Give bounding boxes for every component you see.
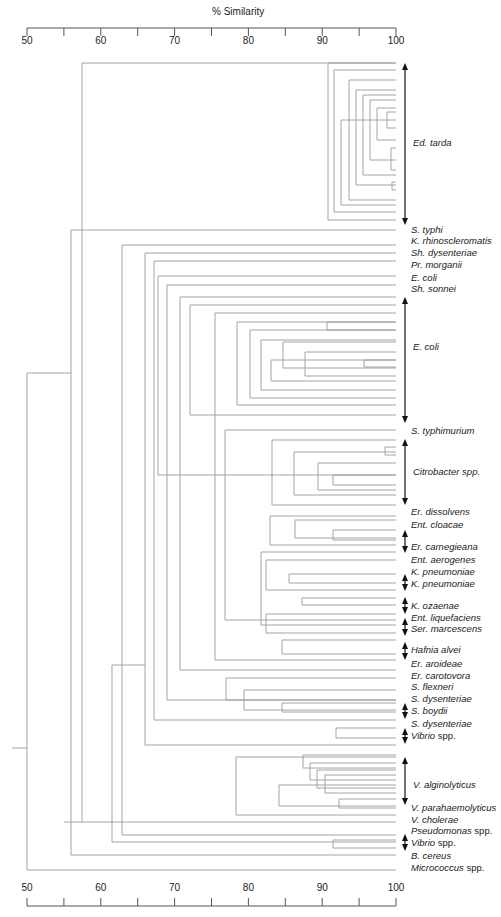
tick-label: 50 bbox=[21, 882, 32, 893]
leaf-label: S. boydii bbox=[411, 706, 447, 716]
leaf-label: K. ozaenae bbox=[411, 601, 459, 611]
arrowhead-icon bbox=[402, 844, 408, 851]
tick-label: 100 bbox=[388, 882, 405, 893]
leaf-label: Pseudomonas spp. bbox=[411, 826, 492, 836]
leaf-label: Vibrio spp. bbox=[411, 731, 456, 741]
arrowhead-icon bbox=[402, 642, 408, 649]
arrowhead-icon bbox=[402, 607, 408, 614]
tick-label: 50 bbox=[21, 35, 32, 46]
arrowhead-icon bbox=[402, 728, 408, 735]
tick-label: 80 bbox=[243, 35, 254, 46]
tick-label: 100 bbox=[388, 35, 405, 46]
group-label: Citrobacter spp. bbox=[413, 467, 480, 477]
arrowhead-icon bbox=[402, 629, 408, 636]
group-label: V. alginolyticus bbox=[413, 780, 476, 790]
arrowhead-icon bbox=[402, 416, 408, 423]
leaf-label: K. rhinoscleromatis bbox=[411, 236, 492, 246]
leaf-label: S. typhi bbox=[411, 225, 443, 235]
arrowhead-icon bbox=[402, 737, 408, 744]
arrowhead-icon bbox=[402, 618, 408, 625]
leaf-label: Ser. marcescens bbox=[411, 624, 482, 634]
leaf-label: Hafnia alvei bbox=[411, 645, 461, 655]
tick-label: 70 bbox=[169, 882, 180, 893]
leaf-label: B. cereus bbox=[411, 851, 451, 861]
arrowhead-icon bbox=[402, 63, 408, 70]
tick-label: 60 bbox=[95, 35, 106, 46]
group-label: E. coli bbox=[413, 342, 439, 352]
leaf-label: V. cholerae bbox=[411, 815, 458, 825]
tick-label: 80 bbox=[243, 882, 254, 893]
leaf-label: S. dysenteriae bbox=[411, 694, 472, 704]
arrowhead-icon bbox=[402, 546, 408, 553]
group-label: Ed. tarda bbox=[413, 138, 452, 148]
tick-label: 60 bbox=[95, 882, 106, 893]
arrowhead-icon bbox=[402, 218, 408, 225]
tick-label: 90 bbox=[317, 882, 328, 893]
tick-label: 90 bbox=[317, 35, 328, 46]
arrowhead-icon bbox=[402, 498, 408, 505]
arrowhead-icon bbox=[402, 757, 408, 764]
leaf-label: Ent. cloacae bbox=[411, 520, 463, 530]
arrowhead-icon bbox=[402, 297, 408, 304]
leaf-label: S. flexneri bbox=[411, 682, 453, 692]
arrowhead-icon bbox=[402, 834, 408, 841]
leaf-label: K. pneumoniae bbox=[411, 579, 475, 589]
arrowhead-icon bbox=[402, 597, 408, 604]
leaf-label: Vibrio spp. bbox=[411, 838, 456, 848]
leaf-label: Er. aroideae bbox=[411, 659, 462, 669]
leaf-label: Er. carotovora bbox=[411, 671, 470, 681]
leaf-label: Er. carnegieana bbox=[411, 542, 478, 552]
leaf-label: Pr. morganii bbox=[411, 260, 462, 270]
leaf-label: Ent. liquefaciens bbox=[411, 613, 481, 623]
arrowhead-icon bbox=[402, 584, 408, 591]
arrowhead-icon bbox=[402, 798, 408, 805]
leaf-label: Sh. dysenteriae bbox=[411, 248, 477, 258]
arrowhead-icon bbox=[402, 703, 408, 710]
leaf-label: E. coli bbox=[411, 273, 437, 283]
leaf-label: K. pneumoniae bbox=[411, 567, 475, 577]
leaf-label: S. typhimurium bbox=[411, 426, 474, 436]
arrowhead-icon bbox=[402, 712, 408, 719]
arrowhead-icon bbox=[402, 574, 408, 581]
leaf-label: Ent. aerogenes bbox=[411, 555, 475, 565]
leaf-label: Er. dissolvens bbox=[411, 507, 470, 517]
arrowhead-icon bbox=[402, 653, 408, 660]
leaf-label: S. dysenteriae bbox=[411, 719, 472, 729]
arrowhead-icon bbox=[402, 439, 408, 446]
tick-label: 70 bbox=[169, 35, 180, 46]
leaf-label: Micrococcus spp. bbox=[411, 863, 484, 873]
arrowhead-icon bbox=[402, 530, 408, 537]
leaf-label: Sh. sonnei bbox=[411, 284, 456, 294]
leaf-label: V. parahaemolyticus bbox=[411, 803, 496, 813]
